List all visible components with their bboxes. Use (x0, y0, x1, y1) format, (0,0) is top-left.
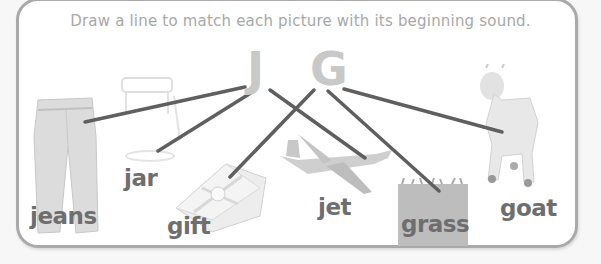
line-g-grass (328, 91, 439, 191)
label-jar: jar (124, 166, 157, 190)
label-goat: goat (500, 196, 557, 220)
label-jet: jet (318, 195, 351, 219)
letter-j: J (247, 46, 264, 92)
line-g-gift (230, 90, 314, 177)
line-j-jar (158, 91, 254, 151)
line-j-jeans (85, 87, 245, 122)
letter-g: G (310, 46, 348, 92)
label-jeans: jeans (30, 204, 97, 228)
label-grass: grass (401, 212, 469, 236)
label-gift: gift (167, 214, 210, 238)
line-j-jet (270, 90, 365, 158)
